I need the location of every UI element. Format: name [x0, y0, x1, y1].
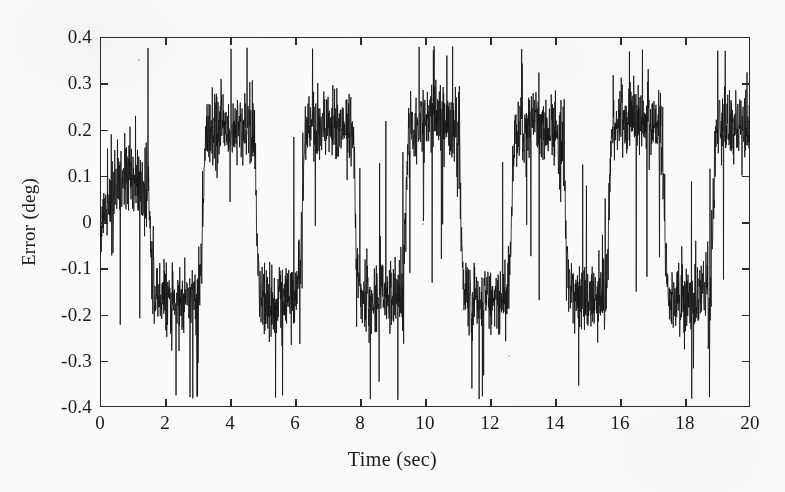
y-axis-tick-mark — [742, 176, 750, 178]
x-axis-tick-mark — [620, 399, 622, 407]
y-axis-tick-label: 0.1 — [68, 165, 92, 187]
x-axis-tick-mark — [360, 399, 362, 407]
x-axis-tick-label: 20 — [740, 412, 759, 434]
x-axis-tick-mark — [165, 37, 167, 45]
x-axis-tick-mark — [230, 37, 232, 45]
scan-speck — [508, 355, 510, 357]
y-axis-tick-label: -0.1 — [61, 257, 92, 279]
y-axis-tick-mark — [100, 222, 108, 224]
x-axis-tick-label: 18 — [675, 412, 694, 434]
x-axis-tick-label: 4 — [225, 412, 235, 434]
x-axis-tick-mark — [165, 399, 167, 407]
x-axis-tick-mark — [555, 399, 557, 407]
x-axis-tick-mark — [685, 399, 687, 407]
y-axis-tick-mark — [100, 176, 108, 178]
x-axis-tick-label: 6 — [290, 412, 300, 434]
y-axis-tick-mark — [742, 130, 750, 132]
x-axis-tick-label: 12 — [480, 412, 499, 434]
y-axis-tick-mark — [742, 268, 750, 270]
x-axis-tick-label: 8 — [355, 412, 365, 434]
x-axis-tick-mark — [295, 37, 297, 45]
y-axis-tick-mark — [100, 361, 108, 363]
y-axis-tick-mark — [100, 315, 108, 317]
x-axis-title: Time (sec) — [0, 448, 785, 471]
y-axis-tick-label: -0.3 — [61, 350, 92, 372]
y-axis-tick-mark — [100, 83, 108, 85]
x-axis-tick-mark — [555, 37, 557, 45]
x-axis-tick-label: 2 — [160, 412, 170, 434]
figure-chart-error-vs-time: Error (deg) 0.40.30.20.10-0.1-0.2-0.3-0.… — [0, 0, 785, 492]
y-axis-tick-mark — [742, 222, 750, 224]
y-axis-tick-mark — [100, 130, 108, 132]
y-axis-tick-mark — [100, 268, 108, 270]
y-axis-tick-label: 0.4 — [68, 26, 92, 48]
error-signal-series — [100, 37, 750, 407]
y-axis-tick-mark — [742, 83, 750, 85]
error-signal-path — [100, 46, 750, 400]
y-axis-tick-label: 0.3 — [68, 72, 92, 94]
y-axis-tick-mark — [742, 315, 750, 317]
x-axis-tick-mark — [685, 37, 687, 45]
y-axis-tick-mark — [742, 361, 750, 363]
x-axis-tick-mark — [620, 37, 622, 45]
x-axis-tick-mark — [490, 37, 492, 45]
y-axis-tick-label: -0.2 — [61, 304, 92, 326]
x-axis-tick-mark — [490, 399, 492, 407]
x-axis-tick-mark — [360, 37, 362, 45]
x-axis-tick-mark — [425, 399, 427, 407]
plot-area — [100, 37, 750, 407]
x-axis-tick-mark — [425, 37, 427, 45]
y-axis-tick-label: 0.2 — [68, 119, 92, 141]
x-axis-tick-mark — [295, 399, 297, 407]
x-axis-tick-label: 14 — [545, 412, 564, 434]
x-axis-tick-labels: 02468101214161820 — [0, 412, 785, 442]
x-axis-tick-label: 0 — [95, 412, 105, 434]
y-axis-tick-label: 0 — [82, 211, 92, 233]
x-axis-tick-label: 10 — [415, 412, 434, 434]
x-axis-tick-mark — [230, 399, 232, 407]
x-axis-tick-label: 16 — [610, 412, 629, 434]
